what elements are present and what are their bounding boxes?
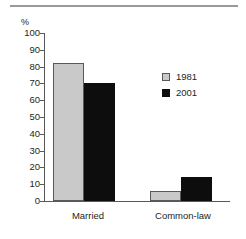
y-axis-tick [40, 134, 44, 135]
top-divider-rule [10, 5, 238, 7]
y-axis-tick-label-wrap: 70 [0, 78, 40, 88]
y-axis-tick-label: 70 [6, 78, 40, 88]
y-axis-tick-label: 30 [6, 146, 40, 156]
y-axis-tick [40, 83, 44, 84]
x-axis-line [44, 201, 230, 202]
y-axis-tick-label: 40 [6, 129, 40, 139]
y-axis-tick-label: 10 [6, 179, 40, 189]
y-axis-tick-label-wrap: 10 [0, 179, 40, 189]
y-axis-line [44, 33, 45, 202]
y-axis-tick-label-wrap: 40 [0, 129, 40, 139]
bar-common-law-2001 [181, 177, 212, 201]
y-axis-tick [40, 67, 44, 68]
y-axis-tick [40, 201, 44, 202]
y-axis-tick-label-wrap: 30 [0, 146, 40, 156]
x-axis-category-label: Common-law [136, 210, 230, 221]
y-axis-tick-label-wrap: 50 [0, 112, 40, 122]
bar-married-1981 [53, 63, 84, 201]
y-axis-tick-label: 90 [6, 45, 40, 55]
legend-label: 2001 [176, 88, 197, 98]
y-axis-tick-label-wrap: 100 [0, 28, 40, 38]
y-axis-tick-label-wrap: 20 [0, 162, 40, 172]
legend-item[interactable]: 2001 [162, 86, 232, 100]
y-axis-tick [40, 184, 44, 185]
y-axis-tick-label-wrap: 80 [0, 62, 40, 72]
y-axis-unit-label: % [21, 17, 29, 27]
y-axis-tick [40, 100, 44, 101]
y-axis-tick-label-wrap: 60 [0, 95, 40, 105]
bar-chart-figure: % 1009080706050403020100 Married Common-… [0, 0, 246, 239]
x-axis-category-label: Married [44, 210, 132, 221]
bar-common-law-1981 [150, 191, 181, 201]
legend-item[interactable]: 1981 [162, 70, 232, 84]
y-axis-tick [40, 50, 44, 51]
legend-swatch-2001-icon [162, 89, 170, 97]
chart-legend: 1981 2001 [162, 70, 232, 102]
bar-married-2001 [84, 83, 115, 201]
y-axis-tick-label: 60 [6, 95, 40, 105]
y-axis-tick-label-wrap: 0 [0, 196, 40, 206]
y-axis-tick-label: 80 [6, 62, 40, 72]
y-axis-tick-label: 100 [6, 28, 40, 38]
legend-label: 1981 [176, 72, 197, 82]
legend-swatch-1981-icon [162, 73, 170, 81]
y-axis-tick-label: 20 [6, 162, 40, 172]
y-axis-tick [40, 117, 44, 118]
y-axis-tick-label-wrap: 90 [0, 45, 40, 55]
y-axis-tick [40, 33, 44, 34]
y-axis-tick-label: 50 [6, 112, 40, 122]
y-axis-tick [40, 151, 44, 152]
y-axis-tick [40, 167, 44, 168]
y-axis-tick-label: 0 [6, 196, 40, 206]
